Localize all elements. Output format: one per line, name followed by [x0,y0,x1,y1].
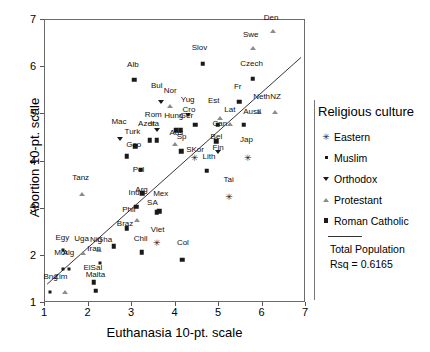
x-tick-label: 7 [302,307,308,318]
data-point-label: Jap [240,136,253,144]
x-tick-label: 4 [171,307,177,318]
data-point-label: Est [208,97,220,105]
data-point-marker: ✳ [225,195,233,199]
y-tick-label: 4 [24,155,36,166]
legend-divider [314,100,315,300]
x-axis-label: Euthanasia 10-pt. scale [44,325,305,340]
legend-item-roman-catholic: Roman Catholic [318,212,426,229]
y-tick-label: 6 [24,61,36,72]
data-point-label: Zim [54,273,67,281]
data-point-label: Col [177,239,189,247]
legend-item-orthodox: Orthodox [318,170,426,187]
legend-item-label: Eastern [334,131,370,143]
data-point-marker [237,99,242,104]
data-point-label: Austl [243,108,261,116]
plot-inner: DenSweSlovCzechAlbBulNorFrNethNZYugEstCr… [45,20,304,301]
data-point-marker [227,122,233,126]
data-point-marker [62,290,68,294]
legend-marker-icon [318,156,334,159]
data-point-marker [79,192,85,196]
data-point-label: Rom [145,111,162,119]
data-point-marker: ✳ [244,156,252,160]
data-point-label: Sp [177,133,187,141]
x-tick-label: 5 [215,307,221,318]
data-point-label: Czech [240,60,263,68]
data-point-label: Nor [164,87,177,95]
data-point-marker [68,267,71,270]
data-point-marker [193,122,198,127]
data-point-label: Alb [127,61,139,69]
scatter-chart-figure: DenSweSlovCzechAlbBulNorFrNethNZYugEstCr… [0,0,430,352]
data-point-label: Mac [111,118,126,126]
data-point-marker [148,138,153,143]
y-tick [40,208,44,209]
data-point-label: Ind [129,189,140,197]
data-point-label: SKor [186,146,204,154]
data-point-marker [61,267,64,270]
data-point-label: Slov [192,44,208,52]
data-point-marker [125,154,130,159]
y-tick [40,19,44,20]
legend-marker-icon: ✳ [318,135,334,139]
data-point-marker [205,169,210,174]
data-point-label: SA [147,199,158,207]
data-point-label: Alg [63,249,75,257]
data-point-marker [49,290,52,293]
data-point-marker [201,62,206,67]
regression-line [45,20,304,301]
data-point-label: Malta [86,271,106,279]
legend-fitline-swatch [328,236,362,237]
y-tick-label: 7 [24,14,36,25]
legend-item-label: Protestant [334,194,382,206]
data-point-marker [139,250,144,255]
data-point-label: Mex [153,190,168,198]
y-tick-label: 3 [24,202,36,213]
data-point-marker [167,104,173,108]
data-point-label: Den [264,14,279,22]
data-point-marker [94,288,99,293]
legend-total-population-label: Total Population [330,242,426,257]
data-point-label: Tai [223,176,233,184]
data-point-marker [251,77,256,82]
data-point-label: Braz [117,220,133,228]
legend-marker-icon [318,198,334,202]
data-point-label: Ita [150,120,159,128]
y-tick [40,113,44,114]
x-tick-label: 3 [128,307,134,318]
legend-entries: ✳EasternMuslimOrthodoxProtestantRoman Ca… [318,128,426,229]
legend-marker-icon [318,177,334,181]
data-point-marker [272,110,278,114]
data-point-label: Phil [122,206,135,214]
data-point-label: Chil [134,235,148,243]
legend-item-label: Muslim [334,152,367,164]
data-point-label: NZ [270,93,281,101]
data-point-marker [179,149,184,154]
legend-item-eastern: ✳Eastern [318,128,426,145]
legend-item-protestant: Protestant [318,191,426,208]
y-tick-label: 2 [24,249,36,260]
x-tick-label: 2 [84,307,90,318]
data-point-label: Viet [151,226,165,234]
data-point-label: Turk [125,128,141,136]
data-point-marker [80,251,86,255]
data-point-marker [111,244,116,249]
data-point-label: Iran [87,245,101,253]
data-point-marker [134,218,140,222]
y-tick [40,66,44,67]
legend-marker-icon [318,218,334,223]
data-point-marker [270,29,276,33]
data-point-label: Lith [203,153,216,161]
y-tick-label: 1 [24,297,36,308]
data-point-label: Neth [253,93,270,101]
plot-area: DenSweSlovCzechAlbBulNorFrNethNZYugEstCr… [44,19,305,302]
data-point-marker [172,142,178,146]
data-point-marker [117,137,123,141]
data-point-marker [250,46,256,50]
data-point-marker [158,100,164,104]
y-tick-label: 5 [24,108,36,119]
data-point-label: Egy [55,234,69,242]
data-point-label: Ger [180,112,193,120]
data-point-label: Can [213,120,228,128]
data-point-label: Fr [234,83,242,91]
x-tick-label: 1 [41,307,47,318]
